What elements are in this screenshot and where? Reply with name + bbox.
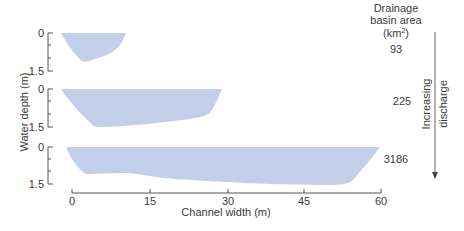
x-axis-label: Channel width (m): [181, 206, 270, 218]
legend-header-line1: Drainage: [374, 2, 419, 14]
x-tick-0: 0: [69, 195, 75, 207]
arrow-label-line2: discharge: [437, 80, 449, 128]
basin-area-225: 225: [393, 95, 411, 107]
x-tick-60: 60: [375, 195, 387, 207]
depth-tick-0: 0: [38, 27, 44, 39]
y-axis-label: Water depth (m): [18, 72, 30, 151]
basin-area-93: 93: [390, 43, 402, 55]
panel-3: 0 1.5: [29, 141, 380, 190]
panel-1: 0 1.5: [29, 27, 126, 77]
channel-shape-93: [61, 33, 126, 62]
channel-shape-225: [61, 89, 222, 127]
channel-shape-3186: [66, 147, 380, 185]
depth-tick-1.5: 1.5: [29, 65, 44, 77]
depth-axis-3: [48, 147, 53, 184]
x-axis: [72, 189, 381, 193]
depth-axis-1: [48, 33, 53, 71]
legend-header-line3: (km2): [383, 27, 409, 39]
arrow-head-icon: [432, 172, 438, 179]
panel-2: 0 1.5: [29, 83, 222, 133]
basin-area-3186: 3186: [384, 153, 408, 165]
x-tick-45: 45: [298, 195, 310, 207]
depth-axis-2: [48, 89, 53, 127]
depth-tick-0: 0: [38, 83, 44, 95]
arrow-label-line1: Increasing: [420, 79, 432, 130]
channel-cross-section-diagram: 0 1.5 0 1.5 0 1.5 Water depth (m): [0, 0, 464, 231]
legend-header-line2: basin area: [370, 14, 422, 26]
depth-tick-0: 0: [38, 141, 44, 153]
depth-tick-1.5: 1.5: [29, 178, 44, 190]
x-tick-15: 15: [144, 195, 156, 207]
depth-tick-1.5: 1.5: [29, 121, 44, 133]
